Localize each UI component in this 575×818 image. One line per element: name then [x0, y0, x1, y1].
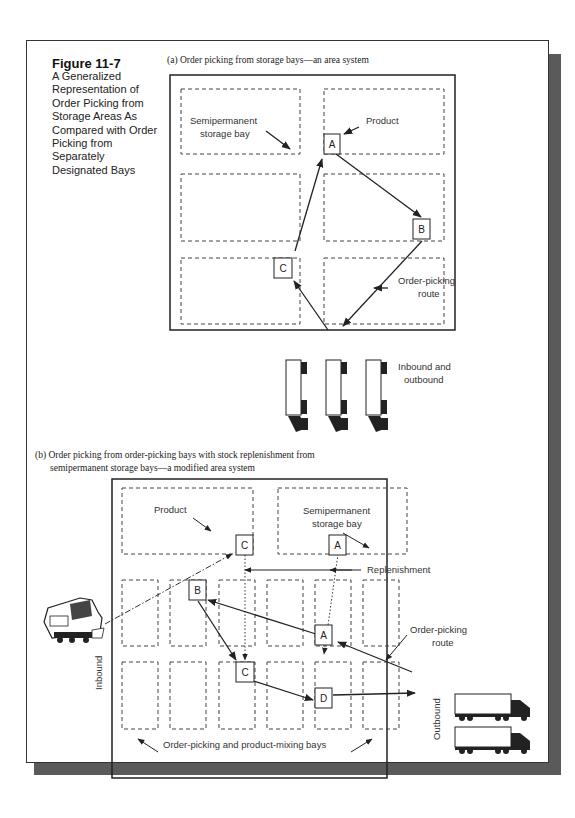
storage-bay [181, 174, 300, 241]
product-label-a: Product [366, 115, 399, 126]
product-box-c-storage: C [236, 535, 253, 555]
svg-text:A: A [320, 630, 327, 641]
semipermanent-label-b: Semipermanent [303, 505, 370, 516]
product-box-c: C [274, 258, 292, 278]
inbound-label: Inbound [93, 656, 104, 690]
route-pointer [386, 635, 407, 660]
svg-text:A: A [334, 540, 341, 551]
svg-text:B: B [418, 224, 425, 235]
panel-b-diagram: C A B A C D Product Semipermanent storag… [44, 479, 530, 778]
outbound-truck-icon [455, 694, 530, 721]
product-box-c-picking: C [236, 662, 254, 682]
train-icon [44, 598, 104, 643]
svg-text:C: C [279, 263, 286, 274]
product-box-d-picking: D [315, 688, 332, 708]
outbound-label: Outbound [431, 698, 442, 740]
product-box-a-picking: A [315, 625, 332, 645]
product-box-a-storage: A [329, 535, 346, 555]
truck-icon [366, 360, 388, 432]
route-label-b-line2: route [432, 637, 454, 648]
bays-pointer-left [138, 739, 158, 752]
order-picking-bays [122, 580, 399, 729]
replenishment-label: Replenishment [367, 564, 431, 575]
svg-text:C: C [241, 540, 248, 551]
product-box-a: A [324, 134, 340, 154]
diagram-canvas: A B C Semipermanent storage bay Product … [0, 0, 575, 818]
storage-bays-b [122, 488, 407, 554]
product-box-b: B [413, 219, 430, 239]
truck-icon [286, 360, 308, 432]
panel-a-diagram: A B C Semipermanent storage bay Product … [170, 75, 455, 432]
product-box-b-picking: B [189, 580, 206, 600]
svg-text:B: B [194, 585, 201, 596]
svg-text:D: D [320, 693, 327, 704]
storage-bay-label-b: storage bay [312, 518, 362, 529]
route-label-a-line1: Order-picking [398, 275, 455, 286]
bays-pointer-right [351, 739, 372, 752]
order-picking-route-a [266, 127, 422, 330]
trucks-label-line2: outbound [404, 374, 444, 385]
route-label-a-line2: route [418, 288, 440, 299]
storage-bay-pointer [343, 533, 369, 548]
product-label-b: Product [154, 504, 187, 515]
panel-a-frame [170, 75, 455, 330]
storage-bay-label-a: storage bay [200, 128, 250, 139]
order-picking-route-b [198, 600, 415, 700]
svg-text:C: C [241, 667, 248, 678]
svg-text:A: A [329, 139, 336, 150]
outbound-truck-icon [455, 727, 530, 754]
trucks-label-line1: Inbound and [398, 361, 451, 372]
semipermanent-label-a: Semipermanent [190, 115, 257, 126]
truck-icon [326, 360, 348, 432]
inbound-route [105, 554, 232, 624]
bays-label: Order-picking and product-mixing bays [163, 739, 326, 750]
semipermanent-storage-bay [122, 488, 253, 554]
truck-icons-a [286, 360, 388, 432]
route-label-b-line1: Order-picking [410, 624, 467, 635]
product-pointer [193, 518, 211, 531]
